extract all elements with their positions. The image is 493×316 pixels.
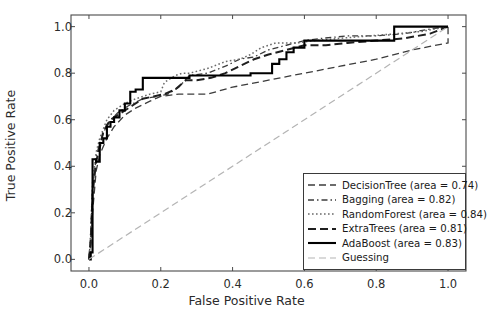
- legend-line-sample: [307, 252, 337, 264]
- x-tick-label: 0.4: [223, 277, 241, 291]
- y-axis-label: True Positive Rate: [4, 89, 19, 200]
- y-axis-label-wrap: True Positive Rate: [2, 0, 20, 290]
- legend-item-randomforest[interactable]: RandomForest (area = 0.84): [307, 207, 461, 222]
- x-tick-label: 0.2: [152, 277, 170, 291]
- legend-item-adaboost[interactable]: AdaBoost (area = 0.83): [307, 236, 461, 251]
- y-tick-label: 0.0: [54, 252, 72, 266]
- legend-line-sample: [307, 237, 337, 249]
- y-tick-label: 1.0: [54, 20, 72, 34]
- legend-item-extratrees[interactable]: ExtraTrees (area = 0.81): [307, 222, 461, 237]
- x-tick-label: 1.0: [439, 277, 457, 291]
- x-tick-label: 0.8: [367, 277, 385, 291]
- legend-line-sample: [307, 179, 337, 191]
- y-tick-label: 0.2: [54, 206, 72, 220]
- x-tick-label: 0.0: [80, 277, 98, 291]
- legend-item-bagging[interactable]: Bagging (area = 0.82): [307, 193, 461, 208]
- y-tick-label: 0.8: [54, 66, 72, 80]
- legend-label: Bagging (area = 0.82): [342, 194, 456, 205]
- legend-label: ExtraTrees (area = 0.81): [342, 223, 467, 234]
- legend-item-decisiontree[interactable]: DecisionTree (area = 0.74): [307, 178, 461, 193]
- roc-chart-figure: False Positive Rate True Positive Rate 0…: [0, 0, 493, 316]
- legend-label: AdaBoost (area = 0.83): [342, 238, 462, 249]
- legend-line-sample: [307, 223, 337, 235]
- legend-label: RandomForest (area = 0.84): [342, 209, 487, 220]
- legend-box: DecisionTree (area = 0.74)Bagging (area …: [303, 173, 466, 270]
- x-axis-label: False Positive Rate: [0, 293, 493, 308]
- x-tick-label: 0.6: [295, 277, 313, 291]
- legend-line-sample: [307, 208, 337, 220]
- legend-label: DecisionTree (area = 0.74): [342, 180, 478, 191]
- legend-item-guessing[interactable]: Guessing: [307, 251, 461, 266]
- y-tick-label: 0.6: [54, 113, 72, 127]
- legend-label: Guessing: [342, 252, 389, 263]
- y-tick-label: 0.4: [54, 159, 72, 173]
- legend-line-sample: [307, 194, 337, 206]
